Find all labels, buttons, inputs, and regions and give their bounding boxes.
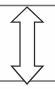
icon-canvas: Vertical double-headed arrow between two… — [0, 0, 55, 89]
double-arrow-graphic — [0, 0, 55, 89]
